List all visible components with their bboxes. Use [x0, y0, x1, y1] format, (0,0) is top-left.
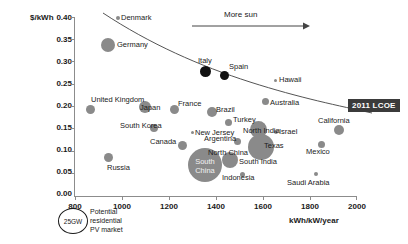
bubble-united-kingdom[interactable]: [86, 105, 95, 114]
label-france: France: [178, 99, 201, 108]
bubble-california[interactable]: [334, 125, 344, 135]
label-north-china: North China: [208, 148, 248, 157]
y-tick-0.20: 0.20: [46, 101, 72, 110]
size-legend-line3: PV market: [90, 226, 123, 235]
bubble-italy[interactable]: [200, 66, 211, 77]
more-sun-arrow-head: [303, 23, 310, 30]
label-brazil: Brazil: [216, 105, 235, 114]
y-tick-0.25: 0.25: [46, 79, 72, 88]
y-tickmark-0.20: [71, 106, 74, 107]
label-united-kingdom: United Kingdom: [91, 95, 144, 104]
bubble-hawaii[interactable]: [274, 79, 277, 82]
size-legend-value: 25GW: [64, 218, 82, 225]
size-legend-line1: Potential: [90, 208, 117, 217]
bubble-new-jersey[interactable]: [191, 131, 194, 134]
y-tick-0.15: 0.15: [46, 123, 72, 132]
y-tickmark-0.35: [71, 39, 74, 40]
x-tick-1600: 1600: [243, 202, 283, 211]
label-spain: Spain: [229, 62, 248, 71]
label-south-korea: South Korea: [120, 121, 162, 130]
x-tickmark-1000: [122, 196, 123, 200]
lcoe-scatter-chart: $/kWh 0.40 0.35 0.30 0.25 0.20 0.15 0.10…: [0, 0, 408, 244]
y-tickmark-0.05: [71, 173, 74, 174]
bubble-denmark[interactable]: [116, 16, 120, 20]
y-tickmark-0.25: [71, 84, 74, 85]
more-sun-annotation: More sun: [224, 10, 257, 19]
label-saudi-arabia: Saudi Arabia: [287, 178, 330, 187]
label-california: California: [318, 116, 350, 125]
label-south-china-line1: South: [192, 158, 218, 166]
y-tickmark-0.10: [71, 151, 74, 152]
x-tickmark-2000: [356, 196, 357, 200]
x-tickmark-1400: [216, 196, 217, 200]
label-israel: Israel: [279, 127, 297, 136]
label-japan: Japan: [140, 103, 160, 112]
label-mexico: Mexico: [306, 147, 330, 156]
x-tickmark-1200: [169, 196, 170, 200]
label-russia: Russia: [107, 163, 130, 172]
x-tick-1200: 1200: [149, 202, 189, 211]
x-tick-1800: 1800: [290, 202, 330, 211]
label-argentina: Argentina: [204, 134, 236, 143]
y-tick-0.00: 0.00: [46, 189, 72, 198]
y-tick-0.30: 0.30: [46, 57, 72, 66]
label-south-china-line2: China: [192, 167, 218, 175]
label-germany: Germany: [117, 40, 148, 49]
x-tickmark-1600: [263, 196, 264, 200]
y-tickmark-0.15: [71, 128, 74, 129]
y-tick-0.40: 0.40: [46, 13, 72, 22]
size-legend-circle: 25GW: [58, 208, 88, 234]
bubble-spain[interactable]: [220, 71, 229, 80]
size-legend-line2: residential: [90, 217, 122, 226]
label-canada: Canada: [150, 137, 176, 146]
bubble-turkey[interactable]: [225, 119, 232, 126]
label-texas: Texas: [264, 141, 284, 150]
x-tickmark-800: [75, 196, 76, 200]
y-tick-0.35: 0.35: [46, 35, 72, 44]
label-north-india: North India: [243, 126, 280, 135]
y-tickmark-0.30: [71, 61, 74, 62]
x-axis-title: kWh/kW/year: [289, 216, 339, 225]
label-denmark: Denmark: [121, 13, 151, 22]
y-tick-0.10: 0.10: [46, 145, 72, 154]
label-south-india: South India: [239, 157, 277, 166]
x-tickmark-1800: [310, 196, 311, 200]
bubble-canada[interactable]: [178, 141, 187, 150]
bubble-australia[interactable]: [262, 98, 269, 105]
x-tick-1400: 1400: [196, 202, 236, 211]
bubble-saudi-arabia[interactable]: [314, 172, 318, 176]
label-australia: Australia: [270, 98, 299, 107]
label-turkey: Turkey: [233, 115, 256, 124]
bubble-russia[interactable]: [104, 153, 113, 162]
label-italy: Italy: [198, 56, 212, 65]
y-tick-0.05: 0.05: [46, 167, 72, 176]
x-tick-2000: 2000: [337, 202, 377, 211]
y-tickmark-0.40: [71, 17, 74, 18]
y-axis-line: [74, 17, 75, 197]
lcoe-badge: 2011 LCOE: [348, 99, 400, 112]
label-indonesia: Indonesia: [222, 173, 255, 182]
label-hawaii: Hawaii: [279, 75, 302, 84]
bubble-germany[interactable]: [101, 38, 115, 52]
